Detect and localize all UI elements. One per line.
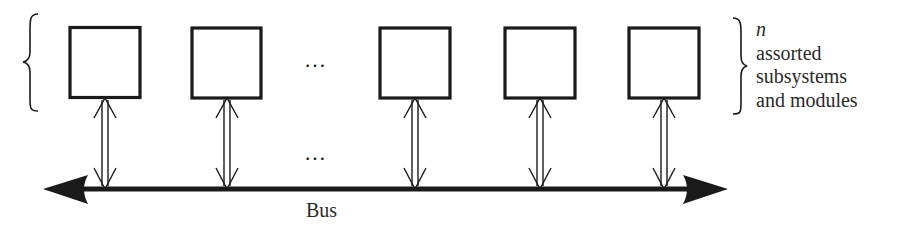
module-box-2 (192, 28, 261, 98)
bidirectional-arrow-icon (404, 98, 426, 189)
bidirectional-arrow-icon (216, 98, 238, 189)
module-box-4 (505, 28, 575, 98)
ellipsis-connections: … (304, 143, 327, 163)
annotation-variable: n (756, 18, 858, 42)
connection-arrows (94, 98, 675, 189)
bidirectional-arrow-icon (529, 98, 551, 189)
left-brace-icon (23, 14, 38, 111)
bidirectional-arrow-icon (653, 98, 675, 189)
module-box-1 (70, 28, 140, 98)
annotation-line-2: subsystems (756, 65, 858, 89)
bus-left-arrowhead-icon (43, 175, 88, 204)
modules-annotation: n assorted subsystems and modules (756, 18, 858, 112)
annotation-line-1: assorted (756, 42, 858, 66)
module-boxes (70, 28, 699, 99)
annotation-line-3: and modules (756, 89, 858, 113)
module-box-3 (380, 28, 450, 98)
bus-right-arrowhead-icon (683, 175, 728, 204)
right-brace-icon (733, 18, 747, 114)
ellipsis-modules: … (304, 50, 327, 70)
module-box-5 (629, 28, 699, 98)
bus-label: Bus (306, 199, 337, 221)
bidirectional-arrow-icon (94, 98, 116, 189)
